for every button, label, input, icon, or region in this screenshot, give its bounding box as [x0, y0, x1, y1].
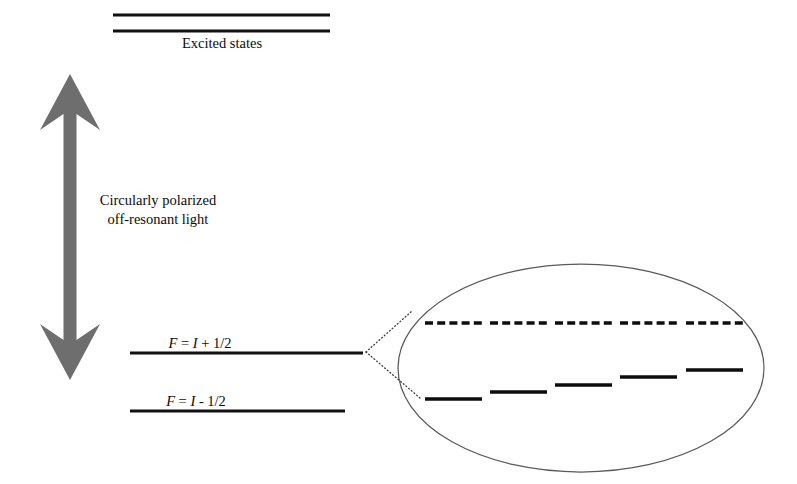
- energy-level-diagram: Excited states Circularly polarized off-…: [0, 0, 797, 484]
- hyperfine-label-upper: F = I + 1/2: [167, 335, 231, 351]
- excited-states-group: Excited states: [113, 15, 330, 51]
- leader-line-lower: [366, 352, 420, 398]
- hyperfine-upper-rest: + 1/2: [198, 335, 232, 351]
- hyperfine-label-lower: F = I - 1/2: [165, 393, 226, 409]
- excited-states-label: Excited states: [182, 35, 262, 51]
- leader-line-upper: [366, 311, 412, 352]
- ground-states-group: F = I + 1/2 F = I - 1/2: [130, 335, 363, 411]
- zeeman-sublevel-inset-group: [366, 264, 764, 472]
- beam-label-line2: off-resonant light: [108, 211, 209, 227]
- beam-label-line1: Circularly polarized: [100, 192, 217, 208]
- hyperfine-upper-eq: =: [177, 335, 192, 351]
- hyperfine-upper-F: F: [167, 335, 177, 351]
- inset-ellipse-outline: [398, 264, 764, 472]
- shifted-sublevels-group: [425, 370, 743, 399]
- hyperfine-lower-rest: - 1/2: [195, 393, 226, 409]
- diagram-canvas: Excited states Circularly polarized off-…: [0, 0, 797, 484]
- circularly-polarized-light-arrow: [40, 74, 100, 380]
- hyperfine-lower-F: F: [165, 393, 175, 409]
- hyperfine-lower-eq: =: [175, 393, 190, 409]
